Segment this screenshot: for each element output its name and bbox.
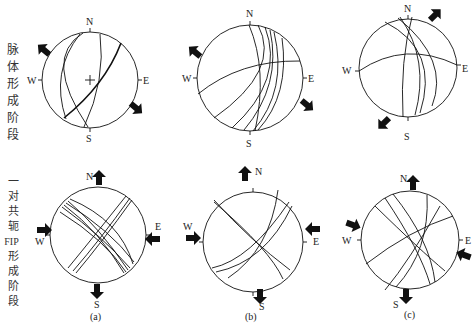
stereonet-bottom-b — [199, 188, 307, 296]
svg-text:E: E — [155, 221, 161, 232]
svg-text:W: W — [342, 235, 352, 246]
svg-text:E: E — [308, 73, 314, 84]
svg-text:(a): (a) — [90, 311, 101, 323]
svg-text:N: N — [86, 16, 93, 27]
extension-arrow-icon — [33, 39, 53, 59]
arrow-down-icon — [90, 284, 104, 299]
arrow-up-icon — [238, 166, 252, 181]
extension-arrow-icon — [373, 113, 394, 134]
stereonet-figure: N S W E N S W E N S W E N S W E N S W E … — [0, 0, 476, 328]
extension-arrow-icon — [425, 4, 446, 25]
arrow-right-icon — [344, 216, 363, 234]
svg-text:E: E — [313, 236, 319, 247]
svg-text:N: N — [404, 3, 411, 14]
svg-text:(b): (b) — [245, 311, 257, 323]
svg-text:W: W — [342, 65, 352, 76]
svg-text:S: S — [86, 133, 92, 144]
arrow-up-icon — [406, 175, 420, 190]
svg-text:E: E — [465, 235, 471, 246]
stereonet-top-c — [355, 15, 461, 121]
stereonet-top-b — [193, 21, 307, 135]
compass-labels: N S W E N S W E N S W E N S W E N S W E … — [27, 3, 471, 312]
arrow-down-icon — [399, 289, 413, 304]
svg-text:W: W — [182, 73, 192, 84]
arrow-left-icon — [305, 222, 320, 236]
svg-text:N: N — [86, 171, 93, 182]
svg-text:N: N — [400, 173, 407, 184]
svg-text:S: S — [94, 299, 100, 310]
extension-arrow-icon — [184, 41, 204, 61]
stereonet-bottom-c — [357, 191, 463, 290]
panel-labels: (a) (b) (c) — [90, 309, 415, 323]
svg-text:E: E — [143, 75, 149, 86]
arrow-left-icon — [145, 232, 160, 246]
svg-text:S: S — [259, 301, 265, 312]
stereonet-top-a — [38, 28, 142, 132]
svg-text:S: S — [246, 138, 252, 149]
svg-text:W: W — [35, 236, 45, 247]
stereonet-bottom-a — [46, 187, 150, 283]
arrow-up-icon — [92, 170, 106, 185]
svg-text:N: N — [246, 8, 253, 19]
arrow-right-icon — [186, 231, 201, 245]
svg-text:E: E — [462, 63, 468, 74]
svg-text:(c): (c) — [404, 309, 415, 321]
svg-text:S: S — [404, 131, 410, 142]
svg-text:N: N — [255, 166, 262, 177]
svg-text:W: W — [183, 221, 193, 232]
svg-text:S: S — [393, 299, 399, 310]
extension-arrow-icon — [297, 95, 317, 115]
svg-text:W: W — [27, 75, 37, 86]
